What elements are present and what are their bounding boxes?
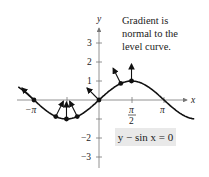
note-line: normal to the	[122, 27, 207, 40]
note-line: level curve.	[122, 40, 207, 53]
x-tick-pi: π	[160, 105, 165, 115]
curve-point	[75, 114, 80, 119]
gradient-arrow	[113, 68, 121, 83]
y-tick-neg3: −3	[81, 152, 91, 162]
gradient-arrow	[70, 101, 78, 116]
curve-point	[118, 81, 123, 86]
y-tick-2: 2	[87, 57, 92, 67]
gradient-arrow	[56, 101, 64, 116]
equation-label: y − sin x = 0	[115, 128, 176, 146]
curve-point	[97, 98, 102, 103]
svg-text:π: π	[129, 105, 134, 115]
y-tick-neg2: −2	[81, 133, 91, 143]
gradient-arrow	[22, 88, 34, 100]
note-line: Gradient is	[122, 14, 207, 27]
curve-point	[53, 114, 58, 119]
x-tick-neg-pi: −π	[25, 105, 36, 115]
figure: y x 3 2 1 −2 −3 −π π π 2 Gradient is nor…	[0, 0, 209, 177]
curve-point	[64, 117, 69, 122]
y-tick-3: 3	[87, 38, 92, 48]
x-tick-pi-half: π 2	[128, 105, 136, 126]
annotation-note: Gradient is normal to the level curve.	[122, 14, 207, 53]
svg-text:2: 2	[129, 116, 134, 126]
x-axis-label: x	[190, 95, 196, 105]
gradient-arrows	[22, 64, 132, 119]
gradient-arrow	[87, 88, 99, 100]
curve-point	[32, 98, 37, 103]
curve-point	[129, 79, 134, 84]
y-axis-label: y	[96, 14, 102, 24]
y-tick-1: 1	[87, 76, 92, 86]
